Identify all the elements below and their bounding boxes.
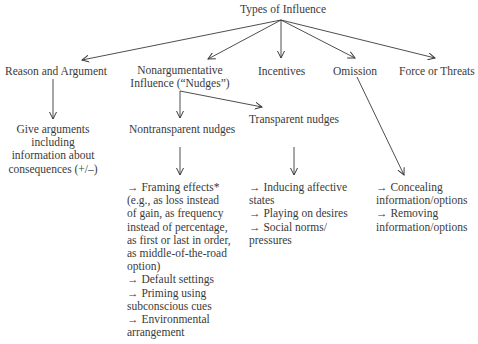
node-nontransparent-nudges: Nontransparent nudges [129,123,235,136]
list-item: information/options [376,194,467,207]
omission-examples-list: Concealing information/options Removing … [376,181,467,234]
arrow-right-icon [249,221,261,233]
list-item: pressures [249,234,348,247]
reason-detail-line: Give arguments [3,123,103,136]
node-transparent-nudges: Transparent nudges [249,113,339,126]
arrow-right-icon [127,273,139,285]
arrow-right-icon [376,207,388,219]
list-item: Framing effects* [127,181,231,194]
node-nonargumentative-influence: Nonargumentative Influence (“Nudges”) [128,64,232,90]
list-item: arrangement [127,326,231,339]
arrow-right-icon [127,287,139,299]
list-item: (e.g., as loss instead [127,194,231,207]
edge-omission-examples [357,77,404,175]
node-incentives: Incentives [258,65,305,78]
reason-detail-line: including [3,136,103,149]
nontransparent-examples-list: Framing effects* (e.g., as loss instead … [127,181,231,339]
arrow-right-icon [376,181,388,193]
node-omission: Omission [333,65,377,78]
arrow-right-icon [127,181,139,193]
list-item: Social norms/ [249,221,348,234]
node-force-or-threats: Force or Threats [399,65,475,78]
edge-nudges-transparent [180,91,262,107]
list-item: of gain, as frequency [127,207,231,220]
reason-detail-line: consequences (+/–) [3,163,103,176]
arrow-right-icon [249,207,261,219]
list-item: as first or last in order, [127,234,231,247]
list-item: Default settings [127,273,231,286]
list-item: states [249,194,348,207]
list-item: subconscious cues [127,300,231,313]
node-reason-and-argument: Reason and Argument [5,65,107,78]
list-item: Priming using [127,287,231,300]
edge-root-omission [281,20,355,58]
list-item: Concealing [376,181,467,194]
transparent-examples-list: Inducing affective states Playing on des… [249,181,348,247]
node-nudges-line-1: Nonargumentative [128,64,232,77]
list-item: information/options [376,221,467,234]
arrow-right-icon [249,181,261,193]
list-item: as middle-of-the-road [127,247,231,260]
reason-detail-line: information about [3,149,103,162]
list-item: Removing [376,207,467,220]
list-item: Environmental [127,313,231,326]
edge-root-reason [82,20,281,60]
list-item: Playing on desires [249,207,348,220]
edge-root-nudges [208,20,281,59]
list-item: option) [127,260,231,273]
list-item: Inducing affective [249,181,348,194]
arrow-right-icon [127,313,139,325]
edge-root-force [281,20,435,58]
node-nudges-line-2: Influence (“Nudges”) [128,77,232,90]
list-item: instead of percentage, [127,221,231,234]
node-reason-detail: Give arguments including information abo… [3,123,103,176]
root-node: Types of Influence [240,3,326,16]
